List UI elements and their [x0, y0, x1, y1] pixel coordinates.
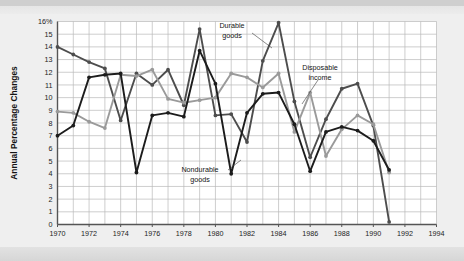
data-point — [245, 75, 249, 79]
data-point — [182, 115, 186, 119]
y-tick-label: 3 — [49, 182, 53, 191]
data-point — [340, 125, 344, 129]
data-point — [308, 155, 312, 159]
x-axis-tick-labels: 1970197219741976197819801982198419861988… — [50, 225, 445, 239]
data-point — [87, 120, 91, 124]
x-tick-label: 1988 — [334, 229, 350, 238]
data-point — [245, 140, 249, 144]
data-point — [214, 82, 218, 86]
data-point — [371, 122, 375, 126]
x-tick-label: 1974 — [113, 229, 129, 238]
data-point — [387, 220, 391, 224]
data-point — [87, 75, 91, 79]
data-point — [103, 126, 107, 130]
data-point — [214, 113, 218, 117]
data-point — [261, 86, 265, 90]
data-point — [356, 113, 360, 117]
x-tick-label: 1982 — [239, 229, 255, 238]
data-point — [229, 72, 233, 76]
y-axis-title-text: Annual Percentage Changes — [9, 66, 19, 180]
data-point — [87, 60, 91, 64]
annotation-label-nondurable: Nondurable — [181, 165, 218, 174]
x-tick-label: 1976 — [144, 229, 160, 238]
data-point — [182, 101, 186, 105]
data-point — [103, 67, 107, 71]
x-tick-label: 1986 — [302, 229, 318, 238]
data-point — [277, 91, 281, 95]
annotation-label-nondurable-line2: goods — [190, 175, 210, 184]
data-point — [356, 82, 360, 86]
data-point — [324, 130, 328, 134]
y-tick-label: 13 — [45, 55, 53, 64]
line-chart: 012345678910111213141516% 19701972197419… — [0, 0, 464, 261]
x-tick-label: 1992 — [397, 229, 413, 238]
x-tick-label: 1978 — [176, 229, 192, 238]
y-tick-label: 11 — [45, 81, 52, 90]
y-tick-label: 9 — [49, 106, 53, 115]
data-point — [277, 21, 281, 25]
data-point — [229, 112, 233, 116]
data-point — [135, 74, 139, 78]
x-tick-label: 1980 — [207, 229, 223, 238]
y-tick-label: 15 — [45, 30, 53, 39]
annotation-label-durable-line2: goods — [222, 31, 242, 40]
data-point — [387, 168, 391, 172]
annotation-label-disposable-line2: income — [308, 73, 331, 82]
y-tick-label: 12 — [45, 68, 53, 77]
y-tick-label: 2 — [49, 195, 53, 204]
data-point — [119, 72, 123, 76]
x-tick-label: 1994 — [429, 229, 445, 238]
data-point — [292, 122, 296, 126]
data-point — [229, 172, 233, 176]
data-point — [371, 139, 375, 143]
data-point — [150, 68, 154, 72]
y-axis-title: Annual Percentage Changes — [9, 66, 19, 180]
data-point — [56, 134, 60, 138]
data-point — [261, 59, 265, 63]
data-point — [71, 111, 75, 115]
data-point — [166, 68, 170, 72]
y-tick-label: 14 — [45, 42, 53, 51]
data-point — [56, 45, 60, 49]
annotation-label-durable: Durable — [219, 21, 244, 30]
y-tick-label: 8 — [49, 119, 53, 128]
data-point — [103, 73, 107, 77]
data-point — [198, 98, 202, 102]
data-point — [324, 117, 328, 121]
data-point — [71, 53, 75, 57]
data-point — [245, 111, 249, 115]
data-point — [135, 171, 139, 175]
data-point — [166, 111, 170, 115]
data-point — [356, 129, 360, 133]
y-tick-label: 10 — [45, 93, 53, 102]
y-tick-label: 5 — [49, 157, 53, 166]
data-point — [324, 154, 328, 158]
data-point — [308, 169, 312, 173]
data-point — [198, 27, 202, 31]
chart-figure: 012345678910111213141516% 19701972197419… — [0, 0, 464, 261]
annotation-label-disposable: Disposable — [302, 63, 338, 72]
x-tick-label: 1970 — [50, 229, 66, 238]
y-axis-tick-labels: 012345678910111213141516% — [38, 17, 53, 229]
data-point — [166, 97, 170, 101]
y-tick-label: 1 — [49, 207, 53, 216]
x-tick-label: 1984 — [271, 229, 287, 238]
data-point — [150, 83, 154, 87]
y-tick-label: 6 — [49, 144, 53, 153]
data-point — [277, 72, 281, 76]
data-point — [56, 110, 60, 114]
x-tick-label: 1990 — [365, 229, 381, 238]
y-tick-label: 7 — [49, 131, 53, 140]
y-tick-label: 4 — [49, 169, 53, 178]
y-tick-label: 0 — [49, 220, 53, 229]
data-point — [198, 49, 202, 53]
x-tick-label: 1972 — [81, 229, 97, 238]
data-point — [150, 113, 154, 117]
data-point — [261, 92, 265, 96]
data-point — [340, 87, 344, 91]
y-tick-label: 16% — [38, 17, 53, 26]
data-point — [71, 124, 75, 128]
data-point — [292, 100, 296, 104]
data-point — [119, 119, 123, 123]
